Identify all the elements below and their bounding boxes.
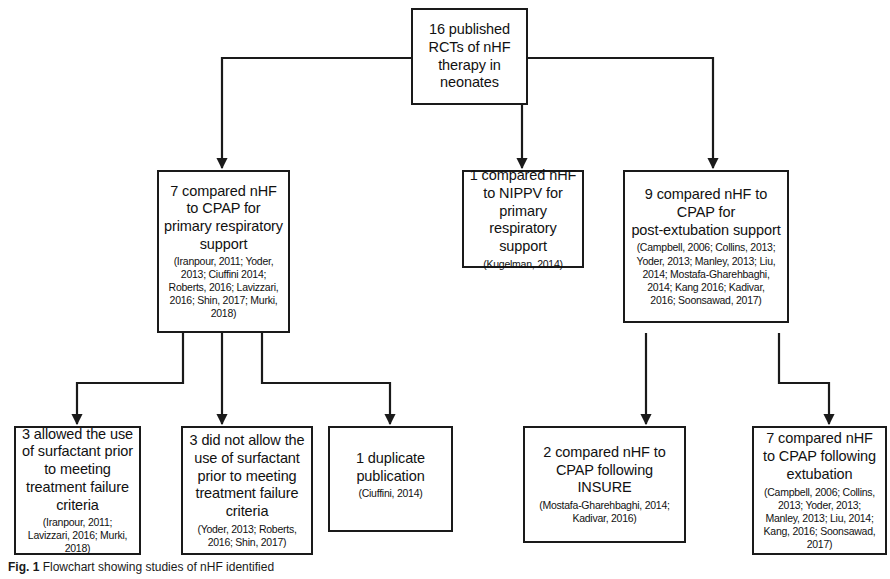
node-extubation-citations: (Campbell, 2006; Collins, 2013; Yoder, 2… (764, 486, 876, 551)
node-extubation[interactable]: 7 compared nHF to CPAP following extubat… (752, 426, 887, 555)
node-root-headline: 16 published RCTs of nHF therapy in neon… (429, 21, 511, 92)
node-duplicate[interactable]: 1 duplicate publication (Ciuffini, 2014) (328, 426, 453, 532)
figure-canvas: 16 published RCTs of nHF therapy in neon… (0, 0, 890, 579)
figure-caption: Fig. 1 Flowchart showing studies of nHF … (8, 560, 878, 579)
edge-postextubation-to-extubation (779, 333, 829, 424)
node-primary-cpap-citations: (Iranpour, 2011; Yoder, 2013; Ciuffini 2… (169, 255, 279, 320)
figure-caption-text: Flowchart showing studies of nHF identif… (43, 560, 274, 574)
node-surfactant-not-allowed-citations: (Yoder, 2013; Roberts, 2016; Shin, 2017) (197, 523, 296, 549)
edge-primary-cpap-to-surfactant-allowed (77, 333, 183, 424)
node-surfactant-allowed-headline: 3 allowed the use of surfactant prior to… (22, 426, 133, 514)
node-surfactant-not-allowed[interactable]: 3 did not allow the use of surfactant pr… (181, 426, 313, 555)
edge-primary-cpap-to-duplicate (262, 333, 390, 424)
figure-caption-label: Fig. 1 (8, 560, 39, 574)
node-insure[interactable]: 2 compared nHF to CPAP following INSURE … (523, 426, 686, 543)
node-insure-citations: (Mostafa-Gharehbaghi, 2014; Kadivar, 201… (539, 499, 669, 525)
node-surfactant-allowed-citations: (Iranpour, 2011; Lavizzari, 2016; Murki,… (28, 516, 127, 555)
node-surfactant-not-allowed-headline: 3 did not allow the use of surfactant pr… (190, 432, 305, 520)
node-primary-cpap[interactable]: 7 compared nHF to CPAP for primary respi… (157, 170, 290, 333)
node-insure-headline: 2 compared nHF to CPAP following INSURE (543, 444, 665, 497)
node-postextubation-citations: (Campbell, 2006; Collins, 2013; Yoder, 2… (637, 241, 776, 306)
node-postextubation-headline: 9 compared nHF to CPAP for post-extubati… (631, 186, 780, 239)
node-duplicate-citations: (Ciuffini, 2014) (358, 487, 422, 500)
node-extubation-headline: 7 compared nHF to CPAP following extubat… (763, 430, 876, 483)
node-root[interactable]: 16 published RCTs of nHF therapy in neon… (411, 8, 528, 105)
node-postextubation[interactable]: 9 compared nHF to CPAP for post-extubati… (623, 170, 789, 323)
node-duplicate-headline: 1 duplicate publication (356, 450, 425, 485)
node-primary-nippv-headline: 1 compared nHF to NIPPV for primary resp… (468, 167, 578, 255)
node-primary-nippv[interactable]: 1 compared nHF to NIPPV for primary resp… (462, 170, 584, 268)
node-surfactant-allowed[interactable]: 3 allowed the use of surfactant prior to… (14, 426, 141, 555)
node-primary-nippv-citations: (Kugelman, 2014) (483, 258, 562, 271)
node-primary-cpap-headline: 7 compared nHF to CPAP for primary respi… (164, 183, 283, 254)
edge-root-to-postextubation (528, 58, 713, 168)
edge-root-to-primary-cpap (222, 58, 411, 168)
